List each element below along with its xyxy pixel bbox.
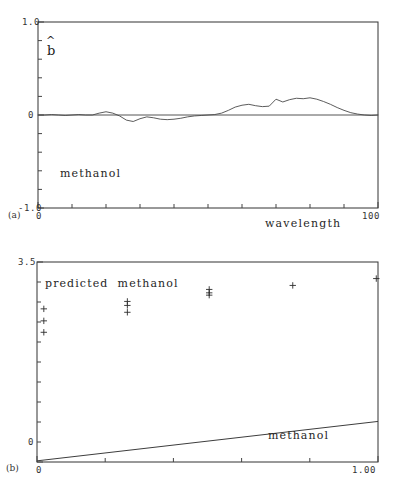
panel-a-y-axis-label-symbol: b (47, 44, 55, 57)
panel-a-y-axis-label: ^ b (46, 41, 66, 59)
panel-a-coefficient-curve (38, 98, 378, 122)
panel-b-ytick-top: 3.5 (18, 258, 36, 267)
panel-a-regression-coefficients: 1.0 0 -1.0 0 100 (a) ^ b methanol wavele… (0, 0, 396, 240)
panel-b-y-ticks (37, 262, 43, 462)
panel-b-annotation-methanol: methanol (268, 430, 329, 441)
panel-a-tag: (a) (8, 211, 20, 220)
panel-b-predicted-vs-actual: 3.5 0 0 1.00 (b) predicted methanol meth… (0, 240, 396, 480)
panel-b-x-ticks (37, 456, 378, 462)
panel-a-plot-area (0, 0, 396, 240)
figure-container: 1.0 0 -1.0 0 100 (a) ^ b methanol wavele… (0, 0, 396, 480)
panel-a-xtick-min: 0 (36, 212, 42, 221)
panel-b-annotation-predicted-methanol: predicted methanol (45, 278, 179, 289)
panel-a-annotation-methanol: methanol (60, 168, 121, 179)
panel-b-plot-area (0, 240, 396, 480)
panel-a-x-ticks (38, 202, 378, 208)
panel-b-xtick-min: 0 (36, 466, 42, 475)
panel-a-ytick-top: 1.0 (22, 18, 40, 27)
panel-b-ytick-zero: 0 (28, 438, 34, 447)
panel-a-xtick-max: 100 (362, 212, 380, 221)
panel-a-xaxis-title: wavelength (265, 218, 341, 229)
panel-a-ytick-zero: 0 (28, 111, 34, 120)
panel-b-xtick-max: 1.00 (352, 466, 376, 475)
panel-b-tag: (b) (6, 464, 19, 473)
